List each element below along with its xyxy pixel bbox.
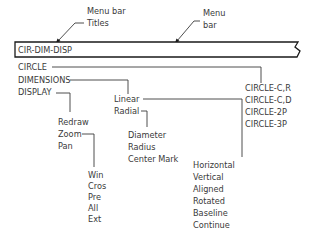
annotation-text: bar bbox=[203, 20, 217, 30]
submenu-item-all[interactable]: All bbox=[88, 203, 98, 213]
leader-line bbox=[177, 21, 200, 41]
menu-item-pan[interactable]: Pan bbox=[58, 141, 73, 151]
submenu-item-aligned[interactable]: Aligned bbox=[193, 184, 224, 194]
submenu-item-diameter[interactable]: Diameter bbox=[128, 130, 167, 140]
annotation-text: Menu bar bbox=[87, 6, 126, 16]
menu-item-redraw[interactable]: Redraw bbox=[58, 117, 89, 127]
menu-title-dimensions[interactable]: DIMENSIONS bbox=[18, 75, 70, 85]
connector-line bbox=[70, 80, 128, 94]
connector-line bbox=[52, 67, 261, 83]
submenu-item-rotated[interactable]: Rotated bbox=[193, 196, 225, 206]
menu-title-display[interactable]: DISPLAY bbox=[18, 87, 53, 97]
menu-item-radial[interactable]: Radial bbox=[114, 106, 139, 116]
submenu-item-baseline[interactable]: Baseline bbox=[193, 208, 228, 218]
menu-item-zoom[interactable]: Zoom bbox=[58, 129, 82, 139]
menu-item-circle-2p[interactable]: CIRCLE-2P bbox=[245, 107, 287, 117]
annotation-text: Menu bbox=[203, 8, 225, 18]
submenu-item-pre[interactable]: Pre bbox=[88, 192, 101, 202]
submenu-item-horizontal[interactable]: Horizontal bbox=[193, 160, 235, 170]
submenu-item-center-mark[interactable]: Center Mark bbox=[128, 154, 179, 164]
menu-structure-diagram: Menu bar Titles Menu bar CIR-DIM-DISP CI… bbox=[0, 0, 309, 240]
submenu-item-ext[interactable]: Ext bbox=[88, 214, 102, 224]
annotation-menu-bar-titles: Menu bar Titles bbox=[56, 6, 126, 43]
menu-bar-title[interactable]: CIR-DIM-DISP bbox=[18, 45, 72, 55]
connector-line bbox=[56, 93, 70, 112]
connector-line bbox=[141, 111, 147, 127]
menu-title-circle[interactable]: CIRCLE bbox=[18, 62, 47, 72]
connector-line bbox=[143, 99, 242, 157]
submenu-item-continue[interactable]: Continue bbox=[193, 220, 230, 230]
connector-line bbox=[82, 134, 94, 167]
annotation-menu-bar: Menu bar bbox=[175, 8, 225, 43]
submenu-item-vertical[interactable]: Vertical bbox=[193, 172, 224, 182]
submenu-item-radius[interactable]: Radius bbox=[128, 142, 155, 152]
annotation-text: Titles bbox=[86, 18, 109, 28]
menu-item-circle-cd[interactable]: CIRCLE-C,D bbox=[245, 95, 291, 105]
submenu-item-win[interactable]: Win bbox=[88, 170, 103, 180]
menu-item-linear[interactable]: Linear bbox=[114, 94, 140, 104]
menu-display: DISPLAY Redraw Zoom Pan Win Cros Pre All… bbox=[18, 87, 106, 224]
submenu-item-cros[interactable]: Cros bbox=[88, 181, 106, 191]
menu-item-circle-3p[interactable]: CIRCLE-3P bbox=[245, 119, 287, 129]
menu-dimensions: DIMENSIONS Linear Radial Horizontal Vert… bbox=[18, 75, 242, 230]
leader-line bbox=[58, 23, 84, 41]
menu-bar[interactable]: CIR-DIM-DISP bbox=[15, 42, 300, 57]
menu-item-circle-cr[interactable]: CIRCLE-C,R bbox=[245, 83, 291, 93]
